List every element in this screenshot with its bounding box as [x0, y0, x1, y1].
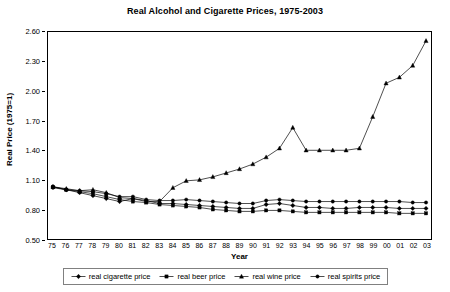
- data-point-marker: [344, 206, 348, 210]
- series-group: [51, 39, 428, 204]
- x-axis-tick-label: 78: [88, 242, 96, 249]
- data-point-marker: [305, 211, 308, 214]
- series-line: [53, 41, 426, 202]
- data-point-marker: [171, 185, 175, 189]
- y-axis-tick-mark: [42, 61, 45, 62]
- data-point-marker: [171, 199, 174, 202]
- series-line: [53, 188, 426, 204]
- data-point-marker: [251, 162, 255, 166]
- x-axis-tick-label: 84: [169, 242, 177, 249]
- data-point-marker: [251, 202, 254, 205]
- x-axis-tick-label: 76: [61, 242, 69, 249]
- data-point-marker: [411, 63, 415, 67]
- x-axis-tick-label: 83: [155, 242, 163, 249]
- legend-marker-icon: [234, 272, 249, 281]
- x-axis-tick-label: 02: [410, 242, 418, 249]
- y-axis-ticks: 2.602.302.001.701.401.100.800.50: [0, 26, 45, 246]
- data-point-marker: [358, 211, 361, 214]
- data-point-marker: [397, 206, 401, 210]
- data-point-marker: [211, 200, 214, 203]
- x-axis-tick-label: 98: [356, 242, 364, 249]
- legend-item[interactable]: real wine price: [234, 272, 300, 281]
- data-point-marker: [264, 202, 268, 206]
- x-axis-tick-label: 77: [75, 242, 83, 249]
- data-point-marker: [411, 201, 414, 204]
- y-axis-tick-label: 0.80: [25, 206, 40, 215]
- data-point-marker: [371, 200, 374, 203]
- x-axis-tick-label: 00: [383, 242, 391, 249]
- data-point-marker: [238, 202, 241, 205]
- data-point-marker: [264, 155, 268, 159]
- data-point-marker: [358, 200, 361, 203]
- x-axis-tick-label: 01: [396, 242, 404, 249]
- data-point-marker: [278, 209, 281, 212]
- y-axis-tick-mark: [42, 91, 45, 92]
- data-point-marker: [384, 211, 387, 214]
- data-point-marker: [344, 211, 347, 214]
- legend-item[interactable]: real beer price: [159, 272, 225, 281]
- data-point-marker: [277, 201, 281, 205]
- data-point-marker: [411, 212, 414, 215]
- legend-label: real cigarette price: [89, 272, 151, 281]
- data-point-marker: [131, 195, 134, 198]
- x-axis-tick-label: 95: [316, 242, 324, 249]
- data-point-marker: [211, 208, 214, 211]
- data-point-marker: [398, 212, 401, 215]
- data-point-marker: [51, 186, 54, 189]
- data-point-marker: [65, 188, 68, 191]
- x-axis-tick-label: 96: [329, 242, 337, 249]
- data-point-marker: [198, 199, 201, 202]
- chart-legend: real cigarette pricereal beer pricereal …: [63, 268, 388, 285]
- y-axis-tick-label: 1.10: [25, 176, 40, 185]
- data-point-marker: [331, 211, 334, 214]
- legend-marker-icon: [310, 272, 325, 281]
- data-point-marker: [424, 212, 427, 215]
- chart-title: Real Alcohol and Cigarette Prices, 1975-…: [0, 6, 450, 16]
- data-point-marker: [344, 200, 347, 203]
- y-axis-tick-label: 2.30: [25, 56, 40, 65]
- data-point-marker: [78, 189, 81, 192]
- y-axis-tick-label: 2.60: [25, 27, 40, 36]
- data-point-marker: [384, 205, 388, 209]
- y-axis-tick-label: 1.40: [25, 146, 40, 155]
- legend-marker-icon: [71, 272, 86, 281]
- data-point-marker: [318, 200, 321, 203]
- x-axis-tick-label: 75: [48, 242, 56, 249]
- x-axis-tick-label: 85: [182, 242, 190, 249]
- data-point-marker: [398, 200, 401, 203]
- legend-label: real spirits price: [328, 272, 381, 281]
- data-point-marker: [185, 198, 188, 201]
- data-point-marker: [424, 39, 428, 43]
- data-point-marker: [331, 200, 334, 203]
- x-axis-tick-label: 88: [222, 242, 230, 249]
- x-axis-tick-label: 03: [423, 242, 431, 249]
- legend-item[interactable]: real spirits price: [310, 272, 381, 281]
- x-axis-tick-label: 79: [102, 242, 110, 249]
- series-group: [51, 185, 427, 215]
- data-point-marker: [238, 210, 241, 213]
- data-point-marker: [384, 200, 387, 203]
- data-point-marker: [158, 199, 161, 202]
- data-point-marker: [278, 198, 281, 201]
- x-axis-tick-label: 82: [142, 242, 150, 249]
- data-point-marker: [411, 206, 415, 210]
- y-axis-tick-label: 2.00: [25, 86, 40, 95]
- x-axis-title: Year: [47, 252, 432, 261]
- y-axis-tick-mark: [42, 121, 45, 122]
- data-point-marker: [304, 205, 308, 209]
- data-point-marker: [171, 204, 174, 207]
- data-point-marker: [185, 205, 188, 208]
- plot-area: [47, 31, 432, 240]
- legend-label: real wine price: [252, 272, 300, 281]
- data-point-marker: [304, 200, 307, 203]
- data-point-marker: [291, 210, 294, 213]
- x-axis-tick-label: 91: [262, 242, 270, 249]
- data-point-marker: [316, 275, 319, 278]
- legend-item[interactable]: real cigarette price: [71, 272, 151, 281]
- data-point-marker: [251, 210, 254, 213]
- data-point-marker: [357, 146, 361, 150]
- x-axis-tick-label: 80: [115, 242, 123, 249]
- y-axis-tick-label: 1.70: [25, 116, 40, 125]
- series-lines: [48, 32, 431, 239]
- x-axis-tick-label: 92: [276, 242, 284, 249]
